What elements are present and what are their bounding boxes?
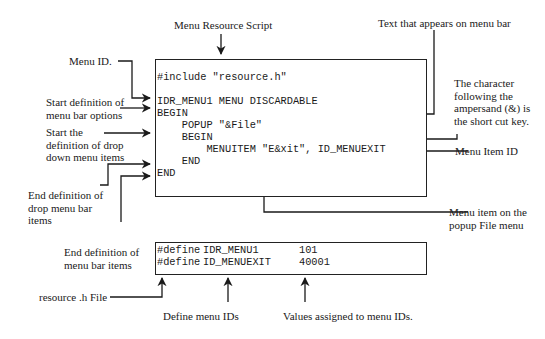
- define-value-1: 101: [299, 245, 318, 256]
- code-line-begin: BEGIN: [157, 108, 188, 119]
- label-menu-id: Menu ID.: [69, 55, 112, 68]
- label-menu-item-popup: Menu item on the popup File menu: [449, 206, 527, 231]
- code-line-popup: POPUP "&File": [157, 120, 262, 131]
- label-end-menu-bar: End definition of menu bar items: [64, 246, 139, 271]
- label-text-on-menu-bar: Text that appears on menu bar: [378, 17, 511, 30]
- code-line-end: END: [157, 168, 176, 179]
- label-shortcut-key: The character following the ampersand (&…: [454, 77, 530, 127]
- code-line-include: #include "resource.h": [157, 72, 287, 83]
- code-line-menuitem: MENUITEM "E&xit", ID_MENUEXIT: [157, 144, 386, 155]
- define-directive-2: #define: [157, 257, 200, 268]
- define-value-2: 40001: [299, 257, 330, 268]
- label-start-drop-down: Start the definition of drop down menu i…: [46, 126, 124, 164]
- label-start-menu-bar: Start definition of menu bar options: [46, 96, 124, 121]
- label-values-assigned: Values assigned to menu IDs.: [283, 310, 413, 323]
- code-line-popup-begin: BEGIN: [157, 132, 213, 143]
- label-resource-h-file: resource .h File: [39, 291, 107, 304]
- code-line-menu-def: IDR_MENU1 MENU DISCARDABLE: [157, 96, 318, 107]
- define-name-1: IDR_MENU1: [203, 245, 259, 256]
- define-name-2: ID_MENUEXIT: [203, 257, 271, 268]
- label-menu-item-id: Menu Item ID: [455, 145, 518, 158]
- label-define-menu-ids: Define menu IDs: [163, 310, 239, 323]
- code-line-popup-end: END: [157, 156, 200, 167]
- diagram-title: Menu Resource Script: [174, 19, 272, 32]
- define-directive-1: #define: [157, 245, 200, 256]
- label-end-drop-menu: End definition of drop menu bar items: [28, 189, 103, 227]
